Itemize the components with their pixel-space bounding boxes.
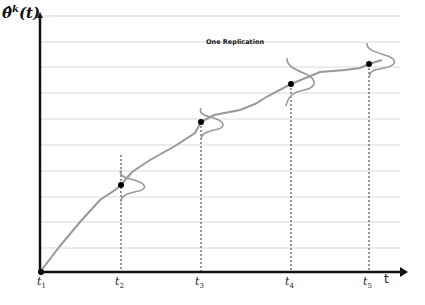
x-tick-t3: t3 (195, 275, 204, 290)
x-tick-t5: t5 (363, 275, 372, 290)
x-tick-t2: t2 (115, 275, 124, 290)
x-tick-t4: t4 (285, 275, 294, 290)
gridlines (40, 16, 400, 248)
sample-path-curve (40, 60, 382, 272)
x-tick-t1: t1 (37, 275, 46, 290)
dashed-guides (121, 64, 369, 272)
y-label-arg: (t) (19, 4, 40, 22)
y-label-superscript: k (12, 3, 19, 14)
axes (40, 16, 400, 272)
y-axis-label: θ̂k(t) (2, 3, 40, 22)
x-axis-arrowhead (400, 267, 408, 277)
chart-title: One Replication (206, 38, 264, 46)
y-label-theta: θ̂ (2, 4, 12, 22)
x-axis-label: t (384, 272, 389, 286)
